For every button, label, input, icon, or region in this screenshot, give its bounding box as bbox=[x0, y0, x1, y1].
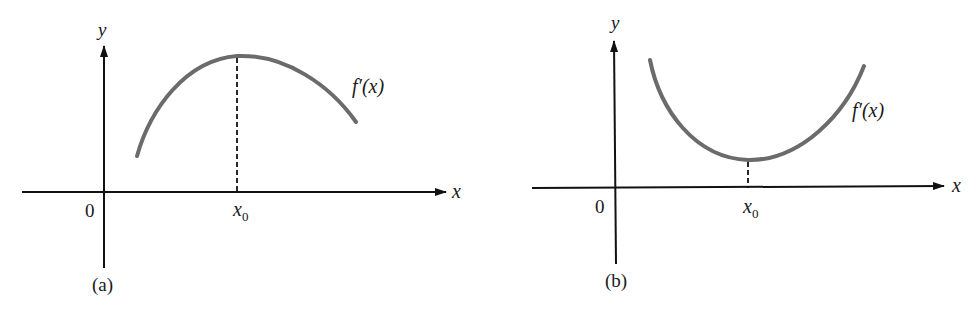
curve-a bbox=[137, 56, 356, 156]
figure-canvas: y x 0 x0 f′(x) (a) y x 0 x0 f′(x) (b) bbox=[0, 0, 974, 310]
origin-label-a: 0 bbox=[85, 200, 95, 221]
origin-label-b: 0 bbox=[595, 196, 605, 217]
x0-label-a: x0 bbox=[232, 198, 248, 224]
x-axis-label-a: x bbox=[451, 180, 461, 202]
x0-label-b: x0 bbox=[742, 195, 758, 221]
panel-b: y x 0 x0 f′(x) (b) bbox=[532, 12, 961, 292]
x-axis-b bbox=[532, 186, 944, 188]
curve-b bbox=[650, 60, 864, 160]
curve-label-a: f′(x) bbox=[352, 75, 384, 98]
y-axis-label-b: y bbox=[609, 12, 620, 33]
y-axis-label-a: y bbox=[96, 19, 107, 40]
caption-a: (a) bbox=[92, 274, 113, 296]
caption-b: (b) bbox=[605, 270, 627, 292]
x-axis-label-b: x bbox=[951, 174, 961, 196]
curve-label-b: f′(x) bbox=[852, 99, 884, 122]
y-axis-b bbox=[614, 41, 616, 264]
panel-a: y x 0 x0 f′(x) (a) bbox=[22, 19, 461, 296]
